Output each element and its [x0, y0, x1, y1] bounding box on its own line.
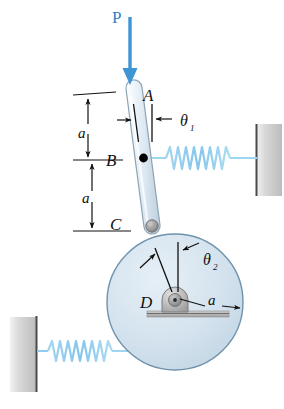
- label-point-C: C: [110, 215, 122, 234]
- pin-joint-C: [146, 220, 158, 232]
- label-point-B: B: [106, 151, 117, 170]
- label-point-A: A: [142, 86, 154, 105]
- label-dim-a-radius: a: [208, 292, 216, 308]
- bearing-support-D: [162, 287, 188, 312]
- wall-right: [256, 124, 282, 196]
- label-theta-1-subscript: 1: [190, 123, 195, 133]
- spring-upper-right: [150, 147, 257, 169]
- mechanism-figure: P A B C D a a a θ 1 θ 2: [0, 0, 284, 409]
- applied-force-arrow-P: [123, 17, 138, 85]
- label-point-D: D: [139, 293, 153, 312]
- label-theta-1-symbol: θ: [180, 112, 188, 129]
- label-dim-a-upper: a: [78, 125, 86, 141]
- dimension-chain-left: [73, 92, 131, 231]
- label-theta-2-subscript: 2: [213, 262, 218, 272]
- wall-left: [10, 316, 37, 392]
- label-theta-1: θ 1: [180, 112, 195, 133]
- point-B-marker: [139, 154, 148, 163]
- label-theta-2-symbol: θ: [203, 251, 211, 268]
- label-dim-a-lower: a: [82, 190, 90, 206]
- label-force-P: P: [112, 8, 121, 27]
